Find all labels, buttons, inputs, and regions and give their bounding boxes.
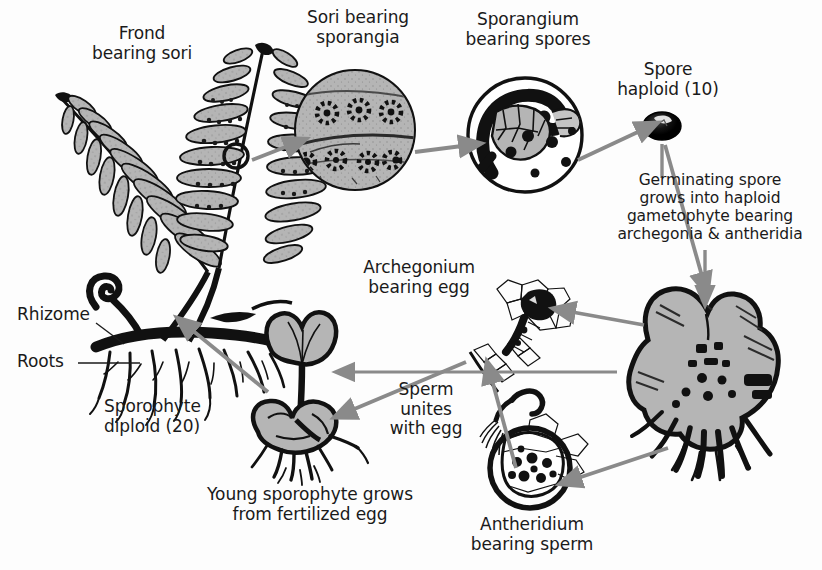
prothallus-gamete-structures xyxy=(672,342,772,408)
released-spores xyxy=(506,127,577,178)
label-antheridium-bearing-sperm: Antheridium bearing sperm xyxy=(452,515,612,554)
arrow-antheridium-to-archegonium xyxy=(492,380,516,468)
label-roots: Roots xyxy=(17,352,97,372)
label-sporangium-bearing-spores: Sporangium bearing spores xyxy=(448,10,608,49)
sori-detail-circle xyxy=(296,71,416,191)
sperm-cells-inside-antheridium xyxy=(508,446,557,483)
fern-frond-left xyxy=(55,92,225,274)
arrow-gametophyte-to-antheridium xyxy=(578,448,668,478)
sperm-illustration xyxy=(480,391,542,455)
label-archegonium-bearing-egg: Archegonium bearing egg xyxy=(344,258,494,297)
sorus-cluster xyxy=(299,100,401,171)
label-sperm-unites-with-egg: Sperm unites with egg xyxy=(383,380,469,439)
sporangium-detail-circle xyxy=(468,78,582,192)
egg-cell xyxy=(521,289,556,320)
label-rhizome: Rhizome xyxy=(17,305,117,325)
arrow-sporangium-to-spore xyxy=(578,131,640,160)
rhizome xyxy=(96,302,292,347)
rhizoids xyxy=(632,412,770,480)
archegonium-neck-cells xyxy=(474,338,540,382)
fern-frond-right-with-sori xyxy=(176,43,328,268)
sperm-flagella xyxy=(480,418,503,455)
sori-dots xyxy=(195,98,310,209)
gametophyte-prothallus-illustration xyxy=(629,289,779,480)
fern-life-cycle-diagram: Frond bearing sori Sori bearing sporangi… xyxy=(0,0,822,570)
arrow-sori-to-sporangium xyxy=(415,146,462,152)
label-sori-bearing-sporangia: Sori bearing sporangia xyxy=(288,8,428,47)
leader-rhizome xyxy=(96,323,124,344)
label-young-sporophyte: Young sporophyte grows from fertilized e… xyxy=(186,485,434,524)
label-germinating-spore: Germinating spore grows into haploid gam… xyxy=(600,172,820,244)
arrow-young-to-mature-sporophyte xyxy=(192,330,268,392)
label-sporophyte-diploid: Sporophyte diploid (20) xyxy=(104,397,254,436)
arrow-frond-to-sori xyxy=(252,146,288,160)
label-spore-haploid: Spore haploid (10) xyxy=(598,60,738,99)
antheridium-illustration xyxy=(490,414,588,508)
label-frond-bearing-sori: Frond bearing sori xyxy=(57,24,227,63)
antheridium-jacket-cells xyxy=(503,414,588,492)
magnifier-circle-on-frond xyxy=(224,144,248,168)
archegonium-cells xyxy=(497,280,572,330)
young-sporophyte-illustration xyxy=(252,312,368,485)
spore-illustration xyxy=(643,112,681,140)
arrow-gametophyte-to-archegonium xyxy=(572,312,644,325)
prothallus-hatching xyxy=(636,300,774,390)
